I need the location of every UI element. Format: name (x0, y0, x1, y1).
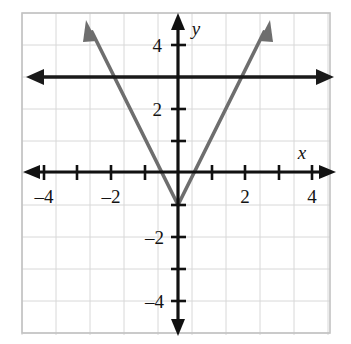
x-tick-label-pos2: 2 (240, 186, 250, 207)
x-tick-label-pos4: 4 (307, 186, 317, 207)
x-tick-label-neg2: –2 (101, 186, 121, 207)
y-tick-label-pos4: 4 (153, 35, 163, 56)
y-tick-label-neg2: –2 (144, 227, 164, 248)
x-tick-label-neg4: –4 (34, 186, 55, 207)
x-axis-label: x (297, 142, 307, 163)
y-tick-label-neg4: –4 (144, 291, 165, 312)
plot-background (22, 13, 330, 335)
graph-figure: x y –4 –2 2 4 4 2 –2 –4 (0, 0, 351, 344)
y-tick-label-pos2: 2 (153, 99, 163, 120)
y-axis-label: y (190, 18, 201, 39)
coordinate-plane: x y –4 –2 2 4 4 2 –2 –4 (0, 0, 351, 344)
